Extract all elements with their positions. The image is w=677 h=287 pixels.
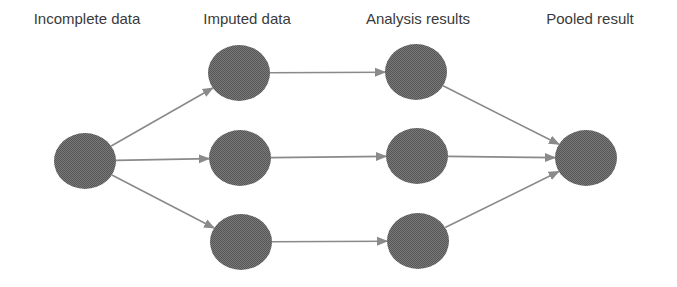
node-imputed-1 bbox=[208, 45, 270, 101]
arrow-imputed-1-to-analysis-1 bbox=[270, 72, 385, 73]
arrow-incomplete-1-to-imputed-1 bbox=[111, 88, 213, 146]
edges bbox=[111, 72, 559, 242]
arrow-analysis-1-to-pooled-1 bbox=[443, 86, 559, 145]
node-incomplete-1 bbox=[54, 133, 116, 189]
flow-graph bbox=[0, 0, 677, 287]
arrow-analysis-3-to-pooled-1 bbox=[445, 171, 559, 227]
node-analysis-3 bbox=[387, 213, 449, 269]
arrow-analysis-2-to-pooled-1 bbox=[448, 156, 555, 157]
node-imputed-3 bbox=[210, 214, 272, 270]
node-analysis-2 bbox=[386, 128, 448, 184]
node-analysis-1 bbox=[385, 44, 447, 100]
arrow-incomplete-1-to-imputed-2 bbox=[116, 159, 209, 161]
node-pooled-1 bbox=[555, 130, 617, 186]
arrow-imputed-2-to-analysis-2 bbox=[271, 156, 386, 157]
arrow-imputed-3-to-analysis-3 bbox=[272, 241, 387, 242]
arrow-incomplete-1-to-imputed-3 bbox=[112, 175, 214, 228]
node-imputed-2 bbox=[209, 130, 271, 186]
